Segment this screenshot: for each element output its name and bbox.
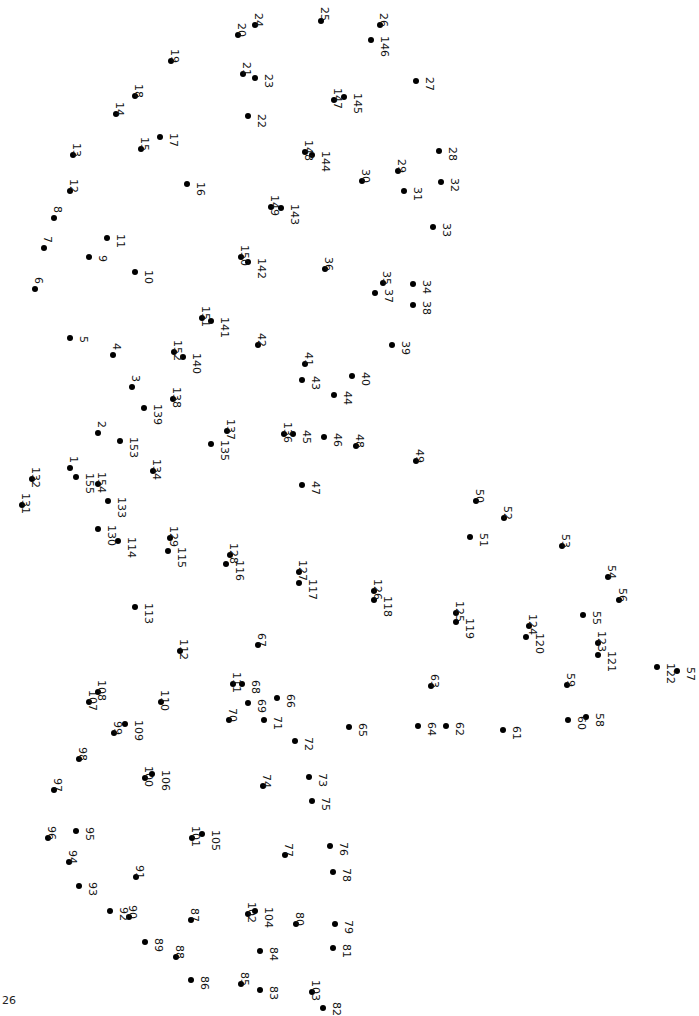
dot-label: 140 [191, 353, 202, 374]
dot-38 [410, 302, 416, 308]
dot-label: 123 [596, 631, 607, 652]
dot-label: 33 [441, 223, 452, 237]
dot-105 [199, 831, 205, 837]
dot-155 [73, 474, 79, 480]
dot-label: 76 [338, 842, 349, 856]
dot-label: 11 [115, 234, 126, 248]
dot-label: 131 [20, 493, 31, 514]
dot-label: 146 [379, 36, 390, 57]
dot-label: 111 [231, 672, 242, 693]
dot-label: 45 [301, 430, 312, 444]
dot-label: 3 [130, 375, 141, 382]
dot-label: 14 [114, 102, 125, 116]
dot-44 [331, 392, 337, 398]
dot-label: 12 [68, 179, 79, 193]
dot-label: 125 [454, 601, 465, 622]
page-number: 26 [2, 994, 16, 1007]
dot-label: 64 [426, 722, 437, 736]
dot-4 [110, 352, 116, 358]
dot-label: 81 [341, 944, 352, 958]
dot-label: 83 [268, 986, 279, 1000]
dot-label: 80 [294, 912, 305, 926]
dot-label: 115 [176, 547, 187, 568]
dot-label: 120 [534, 633, 545, 654]
dot-label: 67 [256, 633, 267, 647]
dot-130 [95, 526, 101, 532]
dot-label: 49 [414, 449, 425, 463]
dot-113 [132, 604, 138, 610]
dot-label: 68 [250, 680, 261, 694]
dot-104 [252, 908, 258, 914]
dot-37 [372, 290, 378, 296]
dot-76 [327, 843, 333, 849]
dot-label: 51 [478, 533, 489, 547]
dot-label: 62 [454, 722, 465, 736]
dot-82 [320, 1005, 326, 1011]
dot-label: 54 [606, 565, 617, 579]
dot-label: 30 [360, 169, 371, 183]
dot-label: 108 [96, 680, 107, 701]
dot-121 [595, 652, 601, 658]
dot-label: 69 [256, 699, 267, 713]
dot-label: 13 [71, 143, 82, 157]
dot-label: 95 [84, 827, 95, 841]
dot-label: 35 [381, 271, 392, 285]
dot-label: 124 [527, 614, 538, 635]
dot-71 [261, 717, 267, 723]
dot-label: 53 [560, 534, 571, 548]
dot-34 [410, 281, 416, 287]
dot-label: 27 [424, 77, 435, 91]
dot-label: 153 [128, 437, 139, 458]
dot-label: 17 [168, 133, 179, 147]
dot-label: 70 [227, 708, 238, 722]
dot-66 [274, 695, 280, 701]
dot-label: 139 [152, 404, 163, 425]
dot-78 [330, 869, 336, 875]
dot-64 [415, 723, 421, 729]
dot-135 [208, 441, 214, 447]
dot-label: 58 [594, 713, 605, 727]
dot-label: 40 [360, 372, 371, 386]
dot-label: 122 [665, 663, 676, 684]
dot-label: 117 [307, 579, 318, 600]
dot-label: 18 [133, 84, 144, 98]
dot-73 [306, 774, 312, 780]
dot-label: 141 [219, 317, 230, 338]
dot-label: 52 [502, 506, 513, 520]
dot-133 [105, 498, 111, 504]
dot-label: 60 [576, 716, 587, 730]
dot-label: 37 [383, 289, 394, 303]
dot-label: 86 [199, 976, 210, 990]
dot-84 [257, 948, 263, 954]
dot-146 [368, 37, 374, 43]
dot-label: 71 [272, 716, 283, 730]
dot-label: 78 [341, 868, 352, 882]
dot-109 [122, 721, 128, 727]
dot-43 [299, 377, 305, 383]
dot-22 [245, 113, 251, 119]
dot-83 [257, 987, 263, 993]
dot-9 [86, 254, 92, 260]
dot-46 [321, 434, 327, 440]
dot-label: 15 [139, 137, 150, 151]
dot-label: 110 [159, 690, 170, 711]
dot-2 [95, 430, 101, 436]
dot-label: 113 [143, 603, 154, 624]
dot-label: 41 [303, 352, 314, 366]
dot-label: 89 [153, 938, 164, 952]
dot-label: 63 [429, 674, 440, 688]
dot-label: 56 [617, 588, 628, 602]
dot-label: 127 [297, 560, 308, 581]
dot-label: 9 [97, 255, 108, 262]
dot-40 [349, 373, 355, 379]
dot-label: 105 [210, 830, 221, 851]
dot-label: 10 [143, 270, 154, 284]
dot-label: 5 [78, 336, 89, 343]
dot-1 [67, 465, 73, 471]
dot-7 [41, 245, 47, 251]
dot-label: 126 [372, 579, 383, 600]
dot-label: 137 [225, 419, 236, 440]
dot-27 [413, 78, 419, 84]
dot-label: 19 [169, 49, 180, 63]
